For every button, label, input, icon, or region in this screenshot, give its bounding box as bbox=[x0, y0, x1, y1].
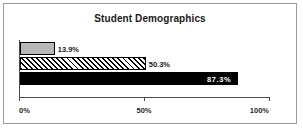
bar-value-label-3: 87.3% bbox=[207, 74, 231, 83]
bar-series-3[interactable]: 87.3% bbox=[20, 72, 238, 85]
bar-series-2[interactable]: 50.3% bbox=[20, 57, 146, 70]
x-axis-tick-100 bbox=[269, 97, 270, 101]
x-tick-label-100: 100% bbox=[250, 106, 269, 115]
x-axis-tick-0 bbox=[19, 97, 20, 101]
chart-frame: Student Demographics 13.9% 50.3% 87.3% 0… bbox=[3, 3, 297, 124]
bar-value-label-2: 50.3% bbox=[149, 59, 170, 68]
chart-title: Student Demographics bbox=[4, 13, 296, 24]
x-axis-tick-50 bbox=[144, 97, 145, 101]
bar-series-1[interactable]: 13.9% bbox=[20, 42, 55, 55]
bar-value-label-1: 13.9% bbox=[58, 44, 79, 53]
x-tick-label-0: 0% bbox=[19, 106, 30, 115]
x-tick-label-50: 50% bbox=[136, 106, 151, 115]
plot-area: 13.9% 50.3% 87.3% 0% 50% 100% bbox=[19, 40, 284, 102]
